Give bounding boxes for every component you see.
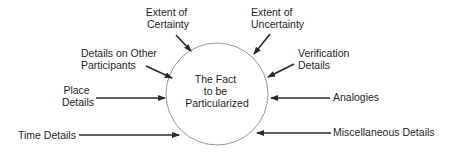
center-label-line-1: The Fact (195, 73, 237, 85)
label-place-details: Place Details (62, 84, 94, 108)
label-verification-details: Verification Details (298, 47, 352, 71)
arrow-certainty (176, 35, 191, 51)
arrow-participants (146, 66, 172, 78)
label-time-details: Time Details (18, 129, 76, 141)
arrow-verification (268, 64, 294, 77)
arrow-uncertainty (254, 34, 270, 54)
center-label-line-2: to be (204, 85, 228, 97)
label-extent-of-uncertainty: Extent of Uncertainty (251, 6, 305, 30)
label-extent-of-certainty: Extent of Certainty (146, 6, 190, 30)
fact-particularization-diagram: The Fact to be Particularized Extent of … (0, 0, 452, 153)
center-label: The Fact to be Particularized (185, 73, 249, 109)
label-miscellaneous-details: Miscellaneous Details (333, 126, 435, 138)
label-analogies: Analogies (333, 91, 379, 103)
center-label-line-3: Particularized (185, 97, 249, 109)
